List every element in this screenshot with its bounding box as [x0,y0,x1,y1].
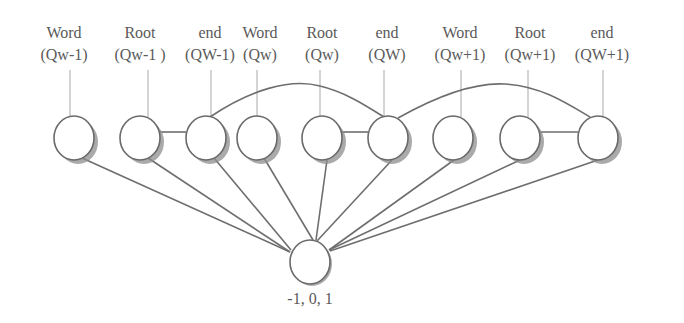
node-label-position: (QW) [368,46,405,64]
node-n3 [186,116,226,160]
edge-n6-to-output [317,160,392,241]
node-label-position: (Qw+1) [505,46,556,64]
node-labels: Word(Qw-1)Root(Qw-1 )end(QW-1)Word(Qw)Ro… [40,24,629,64]
top-node-row [54,116,622,164]
node-label-position: (QW+1) [575,46,629,64]
label-guide-lines [70,70,603,117]
edge-n2-to-output [148,158,290,252]
node-n7 [433,116,473,160]
node-label-type: Root [514,24,546,41]
node-label-type: Word [442,24,477,41]
node-n1 [54,116,94,160]
edge-n5-to-output [316,160,327,240]
node-label-type: end [590,24,613,41]
node-label-position: (Qw-1) [40,46,87,64]
node-label-type: Word [242,24,277,41]
node-label-position: (Qw) [305,46,339,64]
node-n5 [302,116,342,160]
output-node-label: -1, 0, 1 [287,290,332,307]
arc-n6-n9 [398,84,590,118]
node-label-position: (Qw-1 ) [114,46,165,64]
node-label-type: Root [306,24,338,41]
node-n8 [500,116,540,160]
node-n9 [578,116,618,160]
output-node [290,240,330,284]
edge-n7-to-output [329,160,454,250]
node-n4 [237,116,277,160]
edge-n3-to-output [214,158,291,250]
diagram-canvas: Word(Qw-1)Root(Qw-1 )end(QW-1)Word(Qw)Ro… [0,0,684,323]
node-label-type: end [375,24,398,41]
output-node-group: -1, 0, 1 [287,240,332,307]
node-label-type: Root [124,24,156,41]
edge-n8-to-output [329,160,520,250]
edges-to-output [82,158,598,252]
bayesian-network-diagram: Word(Qw-1)Root(Qw-1 )end(QW-1)Word(Qw)Ro… [0,0,684,323]
arc-n3-n6 [210,84,384,117]
node-label-position: (QW-1) [185,46,235,64]
node-label-position: (Qw) [243,46,277,64]
node-label-type: Word [46,24,81,41]
node-label-position: (Qw+1) [435,46,486,64]
edge-n1-to-output [82,158,290,252]
long-range-arcs [210,84,590,118]
node-label-type: end [198,24,221,41]
node-n6 [368,116,408,160]
node-n2 [120,116,160,160]
edge-n9-to-output [330,160,598,251]
